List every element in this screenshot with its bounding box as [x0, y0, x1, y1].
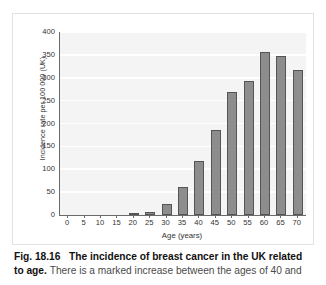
bar — [194, 161, 204, 215]
chart-frame: Incidence rate per 100 000 (UK) 05010015… — [12, 13, 314, 245]
caption-body: There is a marked increase between the a… — [50, 265, 302, 276]
y-axis-tick-label: 350 — [29, 51, 55, 59]
bar — [244, 81, 254, 215]
y-axis-tick-label: 50 — [29, 188, 55, 196]
y-axis-tick-label: 0 — [29, 211, 55, 219]
bar — [260, 52, 270, 215]
plot-area — [59, 32, 306, 216]
y-axis-tick-label: 100 — [29, 165, 55, 173]
figure-root: Incidence rate per 100 000 (UK) 05010015… — [0, 0, 326, 285]
y-axis-tick-label: 150 — [29, 143, 55, 151]
bar — [293, 70, 303, 215]
figure-caption: Fig. 18.16 The incidence of breast cance… — [14, 250, 314, 278]
caption-figure-number: Fig. 18.16 — [14, 251, 60, 262]
y-axis-tick-label: 400 — [29, 28, 55, 36]
y-axis-tick-label: 200 — [29, 120, 55, 128]
y-axis-tick-label: 300 — [29, 74, 55, 82]
bar — [211, 130, 221, 215]
bar — [276, 56, 286, 215]
bar — [162, 204, 172, 215]
x-axis-tick-label: 70 — [286, 219, 308, 227]
y-axis-tick-labels: 050100150200250300350400 — [29, 32, 55, 215]
x-axis-tick-labels: 0510152025303540455055606570 — [59, 219, 305, 231]
x-axis-title: Age (years) — [59, 231, 305, 240]
bar — [227, 92, 237, 215]
bar — [178, 187, 188, 215]
bars-layer — [60, 32, 306, 215]
y-axis-tick-label: 250 — [29, 97, 55, 105]
